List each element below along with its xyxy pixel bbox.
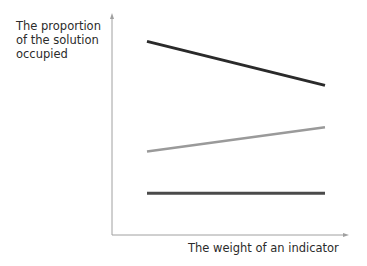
x-axis: [112, 233, 349, 237]
chart-plot: [0, 0, 367, 266]
series-lines: [147, 41, 325, 193]
x-axis-label: The weight of an indicator: [188, 241, 339, 255]
y-axis: [110, 13, 114, 235]
series-line-increasing: [147, 127, 325, 151]
series-line-decreasing: [147, 41, 325, 85]
